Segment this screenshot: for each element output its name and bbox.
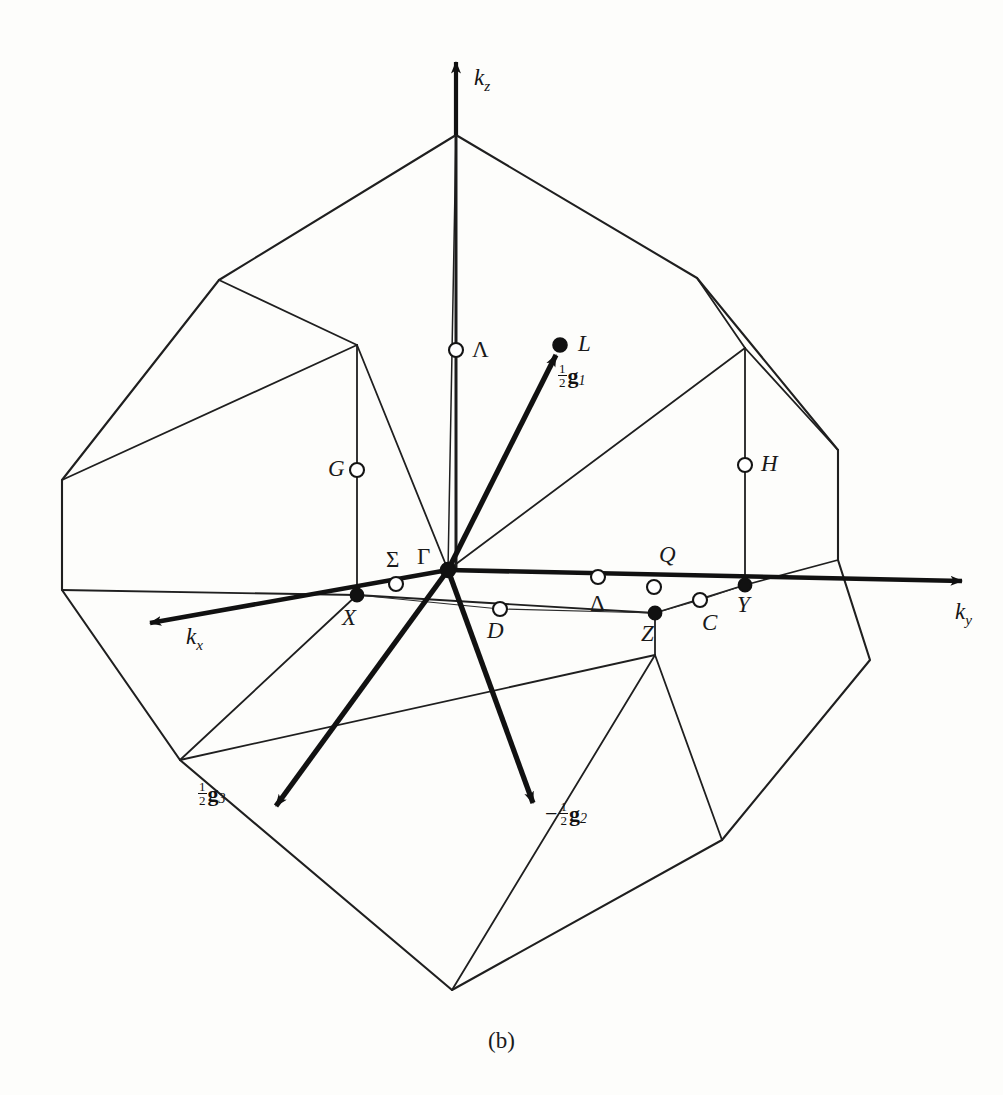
fraction-one-half: 12 [558, 362, 567, 390]
point-L [553, 338, 567, 352]
point-Lambda [449, 343, 463, 357]
point-G [350, 463, 364, 477]
point-gamma [441, 563, 456, 578]
axis-label-kz: kz [474, 66, 490, 93]
brillouin-zone-diagram [0, 0, 1003, 1095]
symmetry-label-Y: Y [737, 593, 750, 616]
axis-ky [448, 570, 962, 581]
vector-label-half-g3: 12g3 [196, 780, 226, 808]
zone-outer-outline [62, 135, 870, 990]
fraction-one-half: 12 [198, 780, 207, 808]
vector-half-g1 [448, 355, 556, 570]
point-Sigma [389, 577, 403, 591]
axis-kx [150, 570, 448, 623]
point-Y [738, 578, 751, 591]
point-D [493, 602, 507, 616]
symmetry-label-L: L [578, 332, 591, 355]
brillouin-zone-figure: kz ky kx 12g1 −12g2 12g3 Γ L X Y Z Λ G H… [0, 0, 1003, 1095]
point-Z [648, 606, 661, 619]
symmetry-label-H: H [761, 452, 778, 475]
symmetry-label-Lambda: Λ [472, 338, 489, 361]
point-C [693, 593, 707, 607]
symmetry-label-gamma: Γ [417, 545, 430, 568]
axis-label-kx: kx [186, 625, 203, 652]
fraction-one-half: 12 [559, 800, 568, 828]
symmetry-label-D: D [487, 619, 504, 642]
point-H [738, 458, 752, 472]
vector-label-minus-half-g2: −12g2 [545, 800, 587, 828]
symmetry-label-X: X [342, 606, 356, 629]
symmetry-label-G: G [328, 457, 345, 480]
point-X [350, 588, 363, 601]
symmetry-label-Q: Q [659, 543, 676, 566]
vector-label-half-g1: 12g1 [556, 362, 586, 390]
point-Q [647, 580, 661, 594]
symmetry-label-C: C [702, 611, 717, 634]
figure-caption: (b) [0, 1028, 1003, 1054]
symmetry-label-Z: Z [641, 622, 654, 645]
point-Delta [591, 570, 605, 584]
vector-half-g3 [276, 570, 448, 806]
symmetry-label-Delta: Δ [590, 592, 605, 615]
symmetry-label-Sigma: Σ [386, 548, 399, 571]
axis-label-ky: ky [955, 600, 972, 627]
